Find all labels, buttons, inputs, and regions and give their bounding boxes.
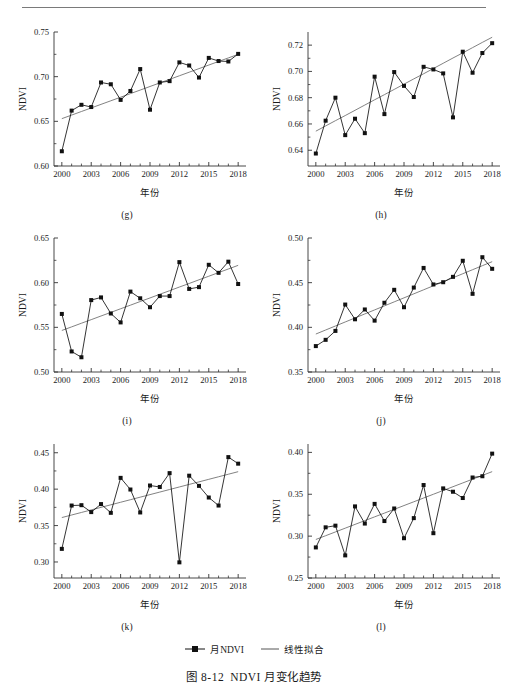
x-tick-label: 2012 xyxy=(171,581,188,591)
x-axis-ticks: 2000200320062009201220152018 xyxy=(53,162,247,179)
y-tick-label: 0.45 xyxy=(288,278,303,288)
x-tick-label: 2012 xyxy=(425,375,442,385)
chart-panel-h: 0.640.660.680.700.7220002003200620092012… xyxy=(254,14,508,214)
panel-cell-h: 0.640.660.680.700.7220002003200620092012… xyxy=(254,14,508,220)
data-line xyxy=(316,257,492,346)
data-point-marker xyxy=(187,474,191,478)
data-point-marker xyxy=(226,59,230,63)
data-point-marker xyxy=(158,485,162,489)
x-tick-label: 2012 xyxy=(171,375,188,385)
x-tick-label: 2015 xyxy=(454,169,471,179)
data-markers xyxy=(314,255,494,348)
x-tick-label: 2003 xyxy=(337,581,354,591)
data-point-marker xyxy=(451,275,455,279)
data-point-marker xyxy=(392,506,396,510)
x-tick-label: 2000 xyxy=(307,169,324,179)
y-tick-label: 0.35 xyxy=(34,521,49,531)
y-tick-label: 0.60 xyxy=(34,278,49,288)
data-point-marker xyxy=(99,80,103,84)
y-tick-label: 0.65 xyxy=(34,233,49,243)
y-tick-label: 0.68 xyxy=(288,93,303,103)
y-tick-label: 0.25 xyxy=(288,573,303,583)
data-point-marker xyxy=(363,131,367,135)
data-point-marker xyxy=(373,75,377,79)
data-point-marker xyxy=(490,41,494,45)
panel-cell-k: 0.300.350.400.45200020032006200920122015… xyxy=(0,426,254,632)
data-point-marker xyxy=(79,103,83,107)
x-axis-title: 年份 xyxy=(140,393,160,404)
data-point-marker xyxy=(138,296,142,300)
y-axis-title: NDVI xyxy=(18,87,28,111)
data-point-marker xyxy=(138,510,142,514)
data-point-marker xyxy=(343,553,347,557)
y-tick-label: 0.75 xyxy=(34,27,49,37)
x-tick-label: 2009 xyxy=(141,581,158,591)
panel-cell-i: 0.500.550.600.65200020032006200920122015… xyxy=(0,220,254,426)
x-tick-label: 2018 xyxy=(484,169,501,179)
data-point-marker xyxy=(382,519,386,523)
data-point-marker xyxy=(119,476,123,480)
data-point-marker xyxy=(187,287,191,291)
data-point-marker xyxy=(324,525,328,529)
x-tick-label: 2000 xyxy=(307,581,324,591)
data-point-marker xyxy=(441,71,445,75)
data-point-marker xyxy=(343,133,347,137)
data-point-marker xyxy=(79,503,83,507)
x-tick-label: 2006 xyxy=(112,581,130,591)
panel-row-1: 0.600.650.700.75200020032006200920122015… xyxy=(0,14,508,220)
y-tick-label: 0.66 xyxy=(288,119,304,129)
data-point-marker xyxy=(226,260,230,264)
x-axis-ticks: 2000200320062009201220152018 xyxy=(53,574,247,591)
data-point-marker xyxy=(471,476,475,480)
data-markers xyxy=(60,455,240,564)
data-point-marker xyxy=(148,305,152,309)
axis-spines xyxy=(54,32,246,166)
data-point-marker xyxy=(89,510,93,514)
x-tick-label: 2015 xyxy=(200,375,217,385)
chart-svg: 0.600.650.700.75200020032006200920122015… xyxy=(0,14,254,214)
y-tick-label: 0.40 xyxy=(288,322,303,332)
chart-panel-l: 0.250.300.350.40200020032006200920122015… xyxy=(254,426,508,626)
data-point-marker xyxy=(197,285,201,289)
x-tick-label: 2000 xyxy=(53,375,70,385)
x-tick-label: 2006 xyxy=(366,375,384,385)
x-tick-label: 2006 xyxy=(112,375,130,385)
data-point-marker xyxy=(119,320,123,324)
data-point-marker xyxy=(187,64,191,68)
x-axis-ticks: 2000200320062009201220152018 xyxy=(307,368,501,385)
x-tick-label: 2012 xyxy=(425,581,442,591)
chart-svg: 0.500.550.600.65200020032006200920122015… xyxy=(0,220,254,420)
x-tick-label: 2018 xyxy=(484,581,501,591)
data-point-marker xyxy=(99,295,103,299)
x-tick-label: 2003 xyxy=(83,581,100,591)
x-tick-label: 2018 xyxy=(230,169,247,179)
x-tick-label: 2012 xyxy=(171,169,188,179)
chart-svg: 0.250.300.350.40200020032006200920122015… xyxy=(254,426,508,626)
x-tick-label: 2000 xyxy=(307,375,324,385)
x-tick-label: 2018 xyxy=(230,375,247,385)
data-point-marker xyxy=(207,56,211,60)
data-point-marker xyxy=(412,95,416,99)
data-point-marker xyxy=(363,307,367,311)
data-point-marker xyxy=(89,105,93,109)
axis-spines xyxy=(308,444,500,578)
data-point-marker xyxy=(490,267,494,271)
data-point-marker xyxy=(79,355,83,359)
data-point-marker xyxy=(168,294,172,298)
data-point-marker xyxy=(138,67,142,71)
data-point-marker xyxy=(109,511,113,515)
trend-line xyxy=(62,265,238,330)
chart-panel-i: 0.500.550.600.65200020032006200920122015… xyxy=(0,220,254,420)
data-point-marker xyxy=(353,317,357,321)
data-point-marker xyxy=(461,50,465,54)
data-point-marker xyxy=(168,471,172,475)
data-point-marker xyxy=(471,71,475,75)
y-tick-label: 0.55 xyxy=(34,322,49,332)
y-axis-title: NDVI xyxy=(18,293,28,317)
data-point-marker xyxy=(158,80,162,84)
legend-item-trend: 线性拟合 xyxy=(260,642,324,656)
x-axis-title: 年份 xyxy=(394,599,414,610)
chart-panel-k: 0.300.350.400.45200020032006200920122015… xyxy=(0,426,254,626)
data-point-marker xyxy=(197,76,201,80)
panel-cell-j: 0.350.400.450.50200020032006200920122015… xyxy=(254,220,508,426)
